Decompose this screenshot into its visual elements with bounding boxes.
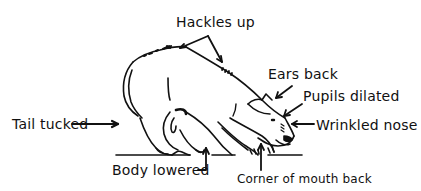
label-corner-of-mouth-back: Corner of mouth back (237, 172, 372, 186)
dog-back (133, 46, 285, 118)
label-hackles-up: Hackles up (176, 14, 255, 30)
annotation-arrows (72, 36, 314, 170)
label-ears-back: Ears back (268, 66, 338, 82)
dog-belly (168, 78, 232, 155)
label-pupils-dilated: Pupils dilated (303, 88, 400, 104)
dog-body-language-diagram: Hackles up Ears back Pupils dilated Wrin… (0, 0, 421, 191)
ear (262, 94, 272, 100)
label-wrinkled-nose: Wrinkled nose (316, 117, 418, 133)
label-tail-tucked: Tail tucked (12, 116, 88, 132)
dog-tail (123, 62, 142, 118)
dog-hind-legs (140, 109, 204, 155)
label-body-lowered: Body lowered (112, 162, 210, 178)
